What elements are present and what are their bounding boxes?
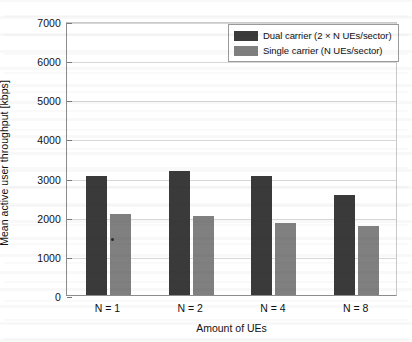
bar: [86, 176, 107, 295]
legend-label: Single carrier (N UEs/sector): [263, 45, 382, 56]
y-tick-label: 6000: [37, 56, 61, 68]
gridline: [67, 101, 396, 102]
y-tick-label: 1000: [37, 252, 61, 264]
bar: [251, 176, 272, 295]
bar: [110, 214, 131, 295]
bar: [193, 216, 214, 295]
gridline: [67, 140, 396, 141]
y-tick-label: 2000: [37, 213, 61, 225]
y-tick-mark: [67, 62, 72, 63]
y-tick-mark: [67, 101, 72, 102]
legend-item: Dual carrier (2 × N UEs/sector): [234, 29, 392, 42]
plot-area: 01000200030004000500060007000: [66, 22, 397, 296]
bar: [358, 226, 379, 295]
gridline: [67, 180, 396, 181]
y-tick-label: 3000: [37, 174, 61, 186]
bar: [334, 195, 355, 295]
legend-label: Dual carrier (2 × N UEs/sector): [263, 30, 392, 41]
y-tick-mark: [67, 23, 72, 24]
bar: [275, 223, 296, 295]
legend-swatch: [234, 31, 258, 41]
y-tick-label: 7000: [37, 17, 61, 29]
y-tick-label: 4000: [37, 134, 61, 146]
scan-speck: [111, 238, 114, 241]
legend-swatch: [234, 46, 258, 56]
bar-chart-figure: Mean active user throughput [kbps] 01000…: [0, 0, 412, 342]
x-axis-title: Amount of UEs: [66, 322, 397, 334]
x-tick-label: N = 8: [343, 302, 368, 314]
x-tick-label: N = 1: [95, 302, 120, 314]
y-tick-label: 5000: [37, 95, 61, 107]
y-tick-mark: [67, 297, 72, 298]
gridline: [67, 62, 396, 63]
y-axis-title: Mean active user throughput [kbps]: [0, 28, 10, 298]
y-tick-mark: [67, 180, 72, 181]
x-tick-label: N = 4: [260, 302, 285, 314]
y-tick-label: 0: [55, 291, 61, 303]
x-tick-label: N = 2: [177, 302, 202, 314]
y-tick-mark: [67, 258, 72, 259]
y-tick-mark: [67, 140, 72, 141]
chart-legend: Dual carrier (2 × N UEs/sector)Single ca…: [228, 24, 399, 62]
y-tick-mark: [67, 219, 72, 220]
bar: [169, 171, 190, 295]
legend-item: Single carrier (N UEs/sector): [234, 44, 392, 57]
